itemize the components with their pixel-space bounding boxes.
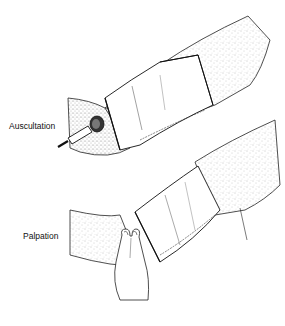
bp-cuff-top: [105, 55, 213, 150]
illustration-canvas: Auscultation Palpation: [0, 0, 285, 326]
arm-cuff-illustration: [0, 0, 285, 326]
auscultation-label: Auscultation: [9, 121, 55, 131]
palpation-label: Palpation: [23, 231, 58, 241]
auscultation-panel: [58, 16, 270, 155]
